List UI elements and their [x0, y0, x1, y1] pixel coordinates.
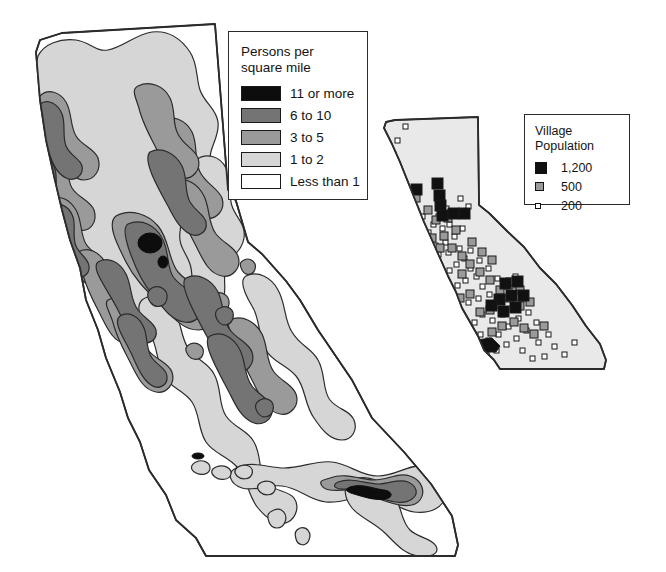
swatch-6-to-10 [241, 108, 281, 123]
density-legend-row-less-than-1: Less than 1 [241, 170, 357, 192]
village-legend-label-500: 500 [561, 180, 582, 194]
village-legend: Village Population 1,200 500 200 [524, 114, 630, 205]
swatch-less-than-1 [241, 174, 281, 189]
density-legend-row-6-to-10: 6 to 10 [241, 104, 357, 126]
density-legend-row-11-or-more: 11 or more [241, 82, 357, 104]
swatch-1-to-2 [241, 152, 281, 167]
density-legend-title: Persons per square mile [241, 44, 357, 76]
swatch-11-or-more [241, 86, 281, 101]
density-legend-label-less-than-1: Less than 1 [290, 174, 360, 189]
density-legend-label-1-to-2: 1 to 2 [290, 152, 324, 167]
village-legend-label-200: 200 [561, 199, 582, 213]
density-legend-label-6-to-10: 6 to 10 [290, 108, 331, 123]
density-legend-label-3-to-5: 3 to 5 [290, 130, 324, 145]
vswatch-500 [535, 182, 544, 191]
swatch-3-to-5 [241, 130, 281, 145]
village-legend-row-200: 200 [535, 196, 621, 215]
map-figure: Persons per square mile 11 or more 6 to … [0, 0, 666, 572]
village-legend-label-1200: 1,200 [561, 161, 592, 175]
density-legend-row-1-to-2: 1 to 2 [241, 148, 357, 170]
density-legend: Persons per square mile 11 or more 6 to … [228, 31, 368, 200]
vswatch-cell-1200 [535, 162, 555, 174]
village-legend-row-500: 500 [535, 177, 621, 196]
village-legend-title: Village Population [535, 124, 621, 154]
density-legend-row-3-to-5: 3 to 5 [241, 126, 357, 148]
vswatch-cell-500 [535, 182, 555, 191]
village-legend-row-1200: 1,200 [535, 158, 621, 177]
vswatch-cell-200 [535, 203, 555, 209]
vswatch-200 [535, 203, 541, 209]
density-legend-label-11-or-more: 11 or more [290, 86, 354, 101]
vswatch-1200 [535, 162, 547, 174]
